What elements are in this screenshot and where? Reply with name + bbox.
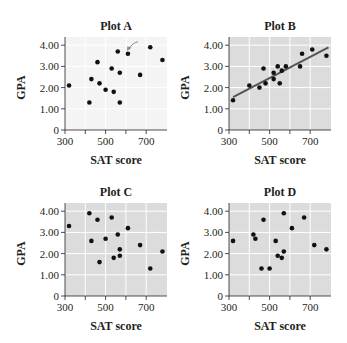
plot-title: Plot D — [264, 185, 297, 199]
data-point — [95, 217, 100, 222]
data-point — [160, 249, 165, 254]
data-point — [282, 211, 287, 216]
y-tick-label: 3.00 — [204, 60, 224, 72]
y-tick-label: 3.00 — [40, 226, 60, 238]
y-tick-label: 1.00 — [40, 103, 60, 115]
x-tick-label: 300 — [57, 301, 74, 313]
y-axis-label: GPA — [178, 241, 192, 266]
data-point — [126, 51, 131, 56]
data-point — [111, 90, 116, 95]
data-point — [261, 66, 266, 71]
y-tick-label: 4.00 — [204, 205, 224, 217]
data-point — [273, 239, 278, 244]
data-point — [231, 239, 236, 244]
data-point — [277, 81, 282, 86]
x-tick-label: 700 — [138, 135, 155, 147]
data-point — [138, 243, 143, 248]
x-tick-label: 700 — [302, 135, 319, 147]
x-axis-label: SAT score — [90, 319, 142, 333]
data-point — [310, 47, 315, 52]
x-tick-label: 300 — [221, 135, 238, 147]
data-point — [115, 49, 120, 54]
y-axis-label: GPA — [14, 75, 28, 100]
data-point — [118, 70, 123, 75]
data-point — [275, 64, 280, 69]
plot-d: 01.002.003.004.00300500700Plot DSAT scor… — [174, 172, 347, 343]
data-point — [148, 45, 153, 50]
x-tick-label: 500 — [97, 301, 114, 313]
x-axis-label: SAT score — [254, 153, 306, 167]
data-point — [67, 224, 72, 229]
data-point — [89, 239, 94, 244]
data-point — [118, 253, 123, 258]
data-point — [126, 226, 131, 231]
x-tick-label: 300 — [57, 135, 74, 147]
data-point — [247, 83, 252, 88]
y-axis-label: GPA — [14, 241, 28, 266]
data-point — [282, 249, 287, 254]
data-point — [67, 83, 72, 88]
plot-a: 01.002.003.004.00300500700Plot ASAT scor… — [0, 0, 173, 171]
data-point — [231, 98, 236, 103]
y-tick-label: 1.00 — [40, 269, 60, 281]
data-point — [138, 73, 143, 78]
data-point — [279, 68, 284, 73]
data-point — [95, 60, 100, 65]
data-point — [118, 247, 123, 252]
y-tick-label: 2.00 — [204, 248, 224, 260]
data-point — [103, 87, 108, 92]
x-tick-label: 500 — [261, 135, 278, 147]
plot-title: Plot C — [100, 185, 132, 199]
data-point — [271, 70, 276, 75]
plot-c: 01.002.003.004.00300500700Plot CSAT scor… — [0, 172, 173, 343]
data-point — [118, 100, 123, 105]
x-tick-label: 300 — [221, 301, 238, 313]
y-tick-label: 3.00 — [40, 60, 60, 72]
data-point — [261, 217, 266, 222]
x-tick-label: 500 — [97, 135, 114, 147]
data-point — [87, 211, 92, 216]
data-point — [279, 256, 284, 261]
data-point — [97, 81, 102, 86]
data-point — [324, 54, 329, 59]
data-point — [312, 243, 317, 248]
data-point — [89, 77, 94, 82]
x-tick-label: 700 — [302, 301, 319, 313]
data-point — [115, 232, 120, 237]
x-tick-label: 500 — [261, 301, 278, 313]
y-axis-label: GPA — [178, 75, 192, 100]
plot-title: Plot A — [100, 19, 132, 33]
data-point — [271, 77, 276, 82]
plot-background — [229, 203, 331, 296]
data-point — [97, 260, 102, 265]
data-point — [103, 236, 108, 241]
scatter-plot-svg: 01.002.003.004.00300500700Plot DSAT scor… — [174, 172, 347, 343]
data-point — [148, 266, 153, 271]
x-axis-label: SAT score — [90, 153, 142, 167]
data-point — [324, 247, 329, 252]
data-point — [259, 266, 264, 271]
data-point — [267, 266, 272, 271]
data-point — [111, 256, 116, 261]
x-axis-label: SAT score — [254, 319, 306, 333]
data-point — [298, 64, 303, 69]
scatter-plot-svg: 01.002.003.004.00300500700Plot BSAT scor… — [174, 0, 347, 171]
y-tick-label: 2.00 — [204, 82, 224, 94]
data-point — [302, 215, 307, 220]
data-point — [300, 51, 305, 56]
y-tick-label: 4.00 — [40, 205, 60, 217]
y-tick-label: 2.00 — [40, 248, 60, 260]
scatter-plot-svg: 01.002.003.004.00300500700Plot CSAT scor… — [0, 172, 173, 343]
data-point — [284, 64, 289, 69]
data-point — [109, 215, 114, 220]
scatter-plot-svg: 01.002.003.004.00300500700Plot ASAT scor… — [0, 0, 173, 171]
y-tick-label: 2.00 — [40, 82, 60, 94]
data-point — [253, 236, 258, 241]
data-point — [109, 66, 114, 71]
y-tick-label: 4.00 — [40, 39, 60, 51]
data-point — [275, 253, 280, 258]
data-point — [251, 232, 256, 237]
x-tick-label: 700 — [138, 301, 155, 313]
y-tick-label: 4.00 — [204, 39, 224, 51]
y-tick-label: 1.00 — [204, 103, 224, 115]
